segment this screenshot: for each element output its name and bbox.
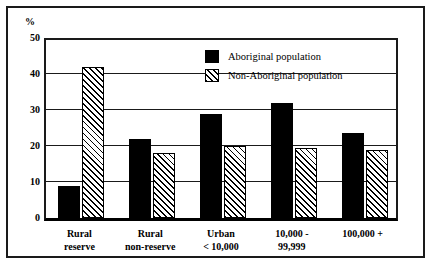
legend-item-1: Non-Aboriginal population — [205, 66, 355, 85]
bar-non-aboriginal-2 — [224, 146, 246, 218]
bar-aboriginal-3 — [271, 103, 293, 218]
y-tick-label-30: 30 — [18, 105, 40, 115]
bar-aboriginal-1 — [129, 139, 151, 218]
legend-label-0: Aboriginal population — [228, 51, 321, 63]
bar-non-aboriginal-0 — [82, 67, 104, 218]
y-tick-label-0: 0 — [18, 213, 40, 223]
legend-swatch-non-aboriginal — [205, 69, 219, 82]
legend-item-0: Aboriginal population — [205, 47, 355, 66]
chart-legend: Aboriginal populationNon-Aboriginal popu… — [205, 47, 355, 85]
y-tick-label-50: 50 — [18, 33, 40, 43]
bar-non-aboriginal-4 — [366, 150, 388, 218]
bar-non-aboriginal-1 — [153, 153, 175, 218]
bar-non-aboriginal-3 — [295, 148, 317, 218]
chart-figure: % 01020304050 Rural reserveRural non-res… — [0, 0, 434, 268]
legend-swatch-aboriginal — [205, 50, 219, 63]
y-tick-label-20: 20 — [18, 141, 40, 151]
x-tick-label-4: 100,000 + — [318, 228, 408, 241]
bar-aboriginal-4 — [342, 133, 364, 218]
bar-aboriginal-0 — [58, 186, 80, 218]
y-tick-label-40: 40 — [18, 69, 40, 79]
legend-label-1: Non-Aboriginal population — [228, 70, 343, 82]
y-tick-label-10: 10 — [18, 177, 40, 187]
bar-aboriginal-2 — [200, 114, 222, 218]
